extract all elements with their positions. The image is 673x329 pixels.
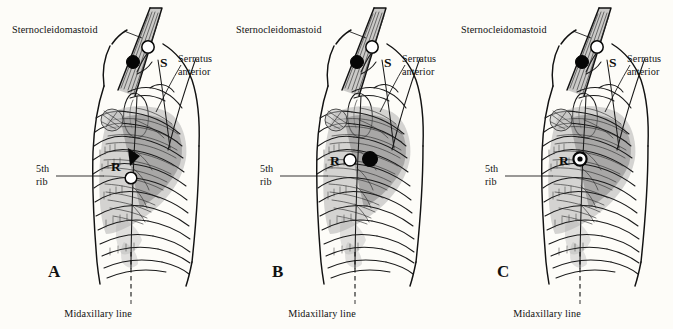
r-open-circle-marker xyxy=(344,154,356,166)
r-open-circle-marker xyxy=(125,172,137,184)
r-label: R xyxy=(111,159,121,174)
s-filled-circle-marker xyxy=(351,56,364,69)
r-target-center-dot xyxy=(577,156,582,161)
rib-label-line2: rib xyxy=(36,176,48,187)
r-label: R xyxy=(330,153,340,168)
hatched-landmark-circle xyxy=(550,109,572,131)
panel-b: S R Sternocleidomastoid Serratus anterio… xyxy=(224,0,448,329)
s-label: S xyxy=(384,55,392,70)
panel-letter-c: C xyxy=(497,262,509,281)
r-label: R xyxy=(559,153,569,168)
panel-c: S R Sternocleidomastoid Serratus anterio… xyxy=(449,0,673,329)
rib-label-line1: 5th xyxy=(36,163,49,174)
midaxillary-label: Midaxillary line xyxy=(64,308,132,319)
sternocleidomastoid-label: Sternocleidomastoid xyxy=(236,24,322,35)
serratus-label-line2: anterior xyxy=(178,66,211,77)
midaxillary-label: Midaxillary line xyxy=(288,308,356,319)
rib-label-line1: 5th xyxy=(260,163,273,174)
torso-illustration-a: S R Sternocleidomastoid Serratus xyxy=(12,8,212,319)
midaxillary-label: Midaxillary line xyxy=(513,308,581,319)
panel-a: S R Sternocleidomastoid Serratus xyxy=(0,0,224,329)
rib-label-line1: 5th xyxy=(485,163,498,174)
sternocleidomastoid-label: Sternocleidomastoid xyxy=(461,24,547,35)
serratus-label-line1: Serratus xyxy=(627,53,661,64)
rib-label-line2: rib xyxy=(260,176,272,187)
s-open-circle-marker xyxy=(142,41,154,53)
torso-illustration-c: S R Sternocleidomastoid Serratus anterio… xyxy=(461,8,661,319)
hatched-landmark-circle xyxy=(325,109,347,131)
anatomical-figure: S R Sternocleidomastoid Serratus xyxy=(0,0,673,329)
s-label: S xyxy=(609,55,617,70)
s-label: S xyxy=(160,55,168,70)
sternocleidomastoid-label: Sternocleidomastoid xyxy=(12,24,98,35)
r-filled-circle-marker xyxy=(363,152,378,167)
s-open-circle-marker xyxy=(366,41,378,53)
serratus-label-line2: anterior xyxy=(627,66,660,77)
s-filled-circle-marker xyxy=(576,56,589,69)
panel-letter-b: B xyxy=(272,262,283,281)
serratus-label-line1: Serratus xyxy=(178,53,212,64)
rib-label-line2: rib xyxy=(485,176,497,187)
s-filled-circle-marker xyxy=(127,56,140,69)
panel-letter-a: A xyxy=(48,262,61,281)
serratus-label-line2: anterior xyxy=(402,66,435,77)
s-open-circle-marker xyxy=(591,41,603,53)
serratus-label-line1: Serratus xyxy=(402,53,436,64)
hatched-landmark-circle xyxy=(101,109,123,131)
torso-illustration-b: S R Sternocleidomastoid Serratus anterio… xyxy=(236,8,436,319)
